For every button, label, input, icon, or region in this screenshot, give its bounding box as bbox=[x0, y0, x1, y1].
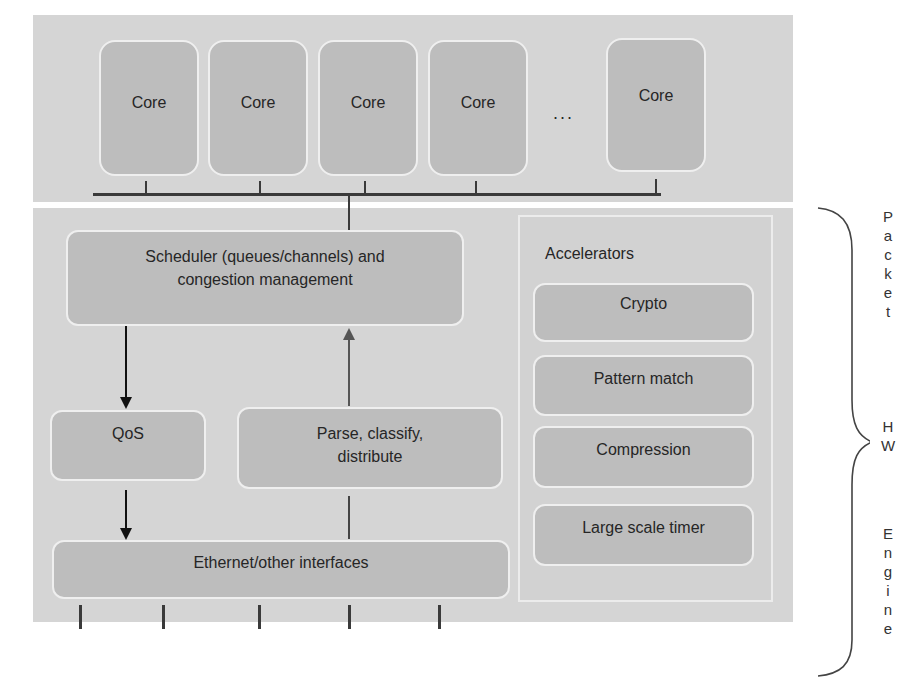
accelerator-pattern-match: Pattern match bbox=[533, 355, 754, 416]
core-bus-tick bbox=[259, 181, 261, 194]
brace-letter: E bbox=[880, 525, 896, 542]
core-box-2: Core bbox=[208, 40, 308, 176]
brace-letter: H bbox=[880, 418, 896, 435]
port-tick bbox=[258, 605, 261, 629]
cores-ellipsis: ... bbox=[553, 103, 574, 124]
accelerator-label: Large scale timer bbox=[582, 516, 705, 539]
scheduler-line2: congestion management bbox=[177, 268, 352, 291]
core-box-1: Core bbox=[99, 40, 199, 176]
core-bus-tick bbox=[145, 181, 147, 194]
brace-letter: t bbox=[880, 303, 896, 320]
arrow-down-icon bbox=[120, 397, 132, 409]
core-label: Core bbox=[241, 91, 276, 114]
scheduler-box: Scheduler (queues/channels) and congesti… bbox=[66, 230, 464, 326]
port-tick bbox=[79, 605, 82, 629]
accelerator-large-scale-timer: Large scale timer bbox=[533, 504, 754, 566]
scheduler-line1: Scheduler (queues/channels) and bbox=[145, 245, 384, 268]
port-tick bbox=[438, 605, 441, 629]
core-label: Core bbox=[461, 91, 496, 114]
brace-letter: W bbox=[880, 437, 896, 454]
parse-to-scheduler-arrow bbox=[348, 338, 350, 406]
parse-line1: Parse, classify, bbox=[317, 422, 423, 445]
brace-letter: c bbox=[880, 246, 896, 263]
ethernet-to-parse-connector bbox=[348, 496, 350, 539]
core-label: Core bbox=[132, 91, 167, 114]
brace-letter: g bbox=[880, 563, 896, 580]
core-bus-tick bbox=[655, 179, 657, 194]
core-label: Core bbox=[639, 84, 674, 107]
brace-letter: P bbox=[880, 208, 896, 225]
port-tick bbox=[162, 605, 165, 629]
brace-letter: e bbox=[880, 284, 896, 301]
core-box-3: Core bbox=[318, 40, 418, 176]
port-tick bbox=[348, 605, 351, 629]
core-label: Core bbox=[351, 91, 386, 114]
parse-classify-box: Parse, classify, distribute bbox=[237, 407, 503, 489]
accelerator-label: Pattern match bbox=[594, 367, 694, 390]
ethernet-label: Ethernet/other interfaces bbox=[193, 551, 368, 574]
core-box-4: Core bbox=[428, 40, 528, 176]
core-box-n: Core bbox=[606, 38, 706, 172]
scheduler-to-qos-arrow bbox=[125, 326, 127, 398]
brace-letter: k bbox=[880, 265, 896, 282]
brace-letter: n bbox=[880, 544, 896, 561]
brace-letter: e bbox=[880, 620, 896, 637]
accelerator-label: Crypto bbox=[620, 292, 667, 315]
brace-letter: i bbox=[880, 582, 896, 599]
core-bus-tick bbox=[364, 181, 366, 194]
parse-line2: distribute bbox=[338, 445, 403, 468]
brace-letter: a bbox=[880, 227, 896, 244]
qos-box: QoS bbox=[50, 410, 206, 481]
accelerator-compression: Compression bbox=[533, 426, 754, 488]
accelerator-label: Compression bbox=[596, 438, 690, 461]
arrow-up-icon bbox=[343, 328, 355, 340]
core-bus bbox=[93, 193, 661, 196]
qos-to-ethernet-arrow bbox=[125, 490, 127, 530]
qos-label: QoS bbox=[112, 422, 144, 445]
ethernet-interfaces-box: Ethernet/other interfaces bbox=[52, 540, 510, 599]
brace-letter: n bbox=[880, 601, 896, 618]
bus-to-scheduler-connector bbox=[348, 195, 350, 232]
accelerators-title: Accelerators bbox=[545, 245, 634, 263]
arrow-down-icon bbox=[120, 528, 132, 540]
accelerator-crypto: Crypto bbox=[533, 283, 754, 342]
core-bus-tick bbox=[475, 181, 477, 194]
curly-brace-icon bbox=[810, 200, 870, 680]
